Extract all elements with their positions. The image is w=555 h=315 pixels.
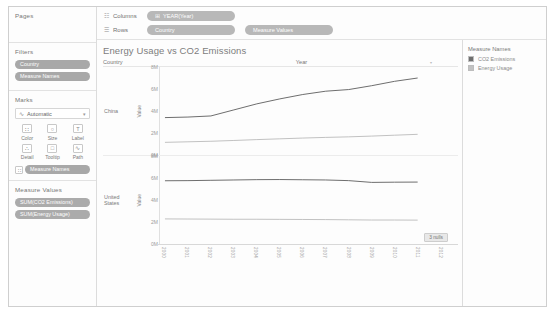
line-energy-usage xyxy=(165,134,418,142)
legend-title: Measure Names xyxy=(468,46,541,52)
color-legend: Measure Names CO2 Emissions Energy Usage xyxy=(462,40,546,306)
y-axis-title-us: Value xyxy=(134,156,143,244)
rows-pill-country[interactable]: Country xyxy=(147,25,235,35)
legend-item-energy-usage[interactable]: Energy Usage xyxy=(468,65,541,71)
y-tick-label: 2M xyxy=(151,219,158,225)
y-axis-title-us-text: Value xyxy=(136,194,142,206)
y-axis-ticks-us: 8M6M4M2M0M xyxy=(143,156,159,244)
marks-pill-measure-names[interactable]: Measure Names xyxy=(25,165,90,174)
marks-button-label-label: Label xyxy=(72,135,84,141)
y-tick-label: 2M xyxy=(151,130,158,136)
series-group-china xyxy=(165,78,418,142)
measure-values-card: Measure Values SUM(CO2 Emissions) SUM(En… xyxy=(9,181,96,306)
marks-button-color-label: Color xyxy=(21,135,33,141)
x-axis-labels: 3 nulls 20002001200220032004200520062007… xyxy=(158,244,458,269)
x-tick-label: 2001 xyxy=(184,247,189,258)
pages-card-title: Pages xyxy=(15,12,90,19)
chevron-down-icon: ▾ xyxy=(83,111,86,117)
columns-shelf[interactable]: ☷ Columns ⊞YEAR(Year) xyxy=(102,10,541,21)
marks-buttons-grid: ∷ Color ○ Size T Label ∴ Detail □ Tool xyxy=(15,124,90,160)
tooltip-icon: □ xyxy=(47,144,57,153)
x-tick-label: 2010 xyxy=(392,247,397,258)
rows-shelf[interactable]: ☰ Rows Country Measure Values xyxy=(102,24,541,35)
rows-icon: ☰ xyxy=(102,26,110,33)
x-tick-label: 2000 xyxy=(161,247,166,258)
plot-united-states[interactable] xyxy=(159,156,458,244)
rows-pills: Country Measure Values xyxy=(147,25,541,35)
measure-pill-co2-emissions[interactable]: SUM(CO2 Emissions) xyxy=(15,198,90,207)
mark-type-dropdown[interactable]: ∿ Automatic ▾ xyxy=(15,108,90,119)
shelves-region: ☷ Columns ⊞YEAR(Year) ☰ Rows Country Mea… xyxy=(97,7,546,40)
filters-card: Filters Country Measure Names xyxy=(9,43,96,91)
legend-item-co2-emissions[interactable]: CO2 Emissions xyxy=(468,56,541,62)
y-tick-label: 6M xyxy=(151,175,158,181)
columns-shelf-label: Columns xyxy=(113,13,147,19)
path-icon: ∿ xyxy=(73,144,83,153)
y-axis-ticks-china: 8M6M4M2M0M xyxy=(143,67,159,155)
y-axis-title-china: Value xyxy=(134,67,143,155)
marks-button-path-label: Path xyxy=(73,154,83,160)
y-tick-label: 8M xyxy=(151,64,158,70)
columns-pill-year[interactable]: ⊞YEAR(Year) xyxy=(147,11,235,21)
x-tick-label: 2008 xyxy=(346,247,351,258)
y-tick-label: 4M xyxy=(151,108,158,114)
sort-icon[interactable]: ▾ xyxy=(430,60,432,65)
columns-pills: ⊞YEAR(Year) xyxy=(147,11,541,21)
left-sidebar: Pages Filters Country Measure Names Mark… xyxy=(9,7,97,306)
nulls-badge[interactable]: 3 nulls xyxy=(424,233,448,242)
x-axis: 3 nulls 20002001200220032004200520062007… xyxy=(103,244,458,269)
row-header-china: China xyxy=(103,67,134,155)
plot-us-svg xyxy=(160,156,458,244)
y-tick-label: 6M xyxy=(151,86,158,92)
y-tick-label: 4M xyxy=(151,197,158,203)
plus-minus-icon[interactable]: ⊞ xyxy=(155,13,160,19)
marks-card-title: Marks xyxy=(15,96,90,103)
line-energy-usage xyxy=(165,219,418,220)
y-tick-label: 8M xyxy=(151,153,158,159)
color-icon: ∷ xyxy=(22,124,32,133)
x-tick-label: 2007 xyxy=(322,247,327,258)
marks-button-tooltip[interactable]: □ Tooltip xyxy=(40,144,64,161)
legend-label-co2: CO2 Emissions xyxy=(478,56,515,62)
rows-shelf-label: Rows xyxy=(113,27,147,33)
x-tick-label: 2012 xyxy=(438,247,443,258)
header-year-label: Year xyxy=(296,59,307,65)
marks-button-size[interactable]: ○ Size xyxy=(40,124,64,141)
worksheet-viz: Energy Usage vs CO2 Emissions Country Ye… xyxy=(97,40,462,306)
page-title: Energy Usage vs CO2 Emissions xyxy=(103,45,458,56)
x-tick-label: 2002 xyxy=(207,247,212,258)
x-tick-label: 2006 xyxy=(299,247,304,258)
mark-type-label: Automatic xyxy=(27,111,83,117)
rows-pill-measure-values[interactable]: Measure Values xyxy=(245,25,333,35)
label-icon: T xyxy=(73,124,83,133)
marks-button-path[interactable]: ∿ Path xyxy=(66,144,90,161)
row-header-united-states: United States xyxy=(103,156,134,244)
x-tick-label: 2009 xyxy=(369,247,374,258)
line-co2-emissions xyxy=(165,180,418,183)
series-group-us xyxy=(165,180,418,221)
x-tick-label: 2003 xyxy=(230,247,235,258)
plot-china-svg xyxy=(160,67,458,155)
filter-pill-measure-names[interactable]: Measure Names xyxy=(15,72,90,81)
measure-pill-energy-usage[interactable]: SUM(Energy Usage) xyxy=(15,210,90,219)
color-encoding-icon: ∷ xyxy=(15,166,23,174)
filters-card-title: Filters xyxy=(15,48,90,55)
size-icon: ○ xyxy=(47,124,57,133)
plot-china[interactable] xyxy=(159,67,458,155)
marks-button-label[interactable]: T Label xyxy=(66,124,90,141)
panel-china: China Value 8M6M4M2M0M xyxy=(103,67,458,155)
header-country: Country xyxy=(103,59,145,65)
marks-button-tooltip-label: Tooltip xyxy=(45,154,59,160)
line-mark-icon: ∿ xyxy=(19,110,24,117)
pages-card: Pages xyxy=(9,7,96,43)
header-year: Year ▾ xyxy=(145,59,458,65)
marks-button-detail[interactable]: ∴ Detail xyxy=(15,144,39,161)
x-tick-label: 2011 xyxy=(415,247,420,258)
marks-button-size-label: Size xyxy=(48,135,58,141)
legend-label-energy: Energy Usage xyxy=(478,65,512,71)
marks-color-encoding-row: ∷ Measure Names xyxy=(15,165,90,174)
main-area: ☷ Columns ⊞YEAR(Year) ☰ Rows Country Mea… xyxy=(97,7,546,306)
x-tick-label: 2004 xyxy=(253,247,258,258)
marks-button-color[interactable]: ∷ Color xyxy=(15,124,39,141)
filter-pill-country[interactable]: Country xyxy=(15,60,90,69)
